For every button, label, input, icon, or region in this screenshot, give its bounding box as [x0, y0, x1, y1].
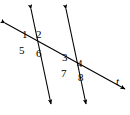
angle-label-2: 2	[36, 29, 42, 40]
angle-label-3: 3	[62, 52, 68, 63]
angle-label-1: 1	[22, 29, 28, 40]
geometry-figure: 1 2 5 6 3 4 7 8 t	[0, 0, 130, 115]
second-parallel-line	[66, 9, 86, 104]
angle-label-6: 6	[36, 48, 42, 59]
angle-label-4: 4	[77, 58, 83, 69]
transversal-label-t: t	[116, 76, 119, 87]
angle-label-5: 5	[19, 45, 25, 56]
angle-label-8: 8	[78, 72, 84, 83]
angle-label-7: 7	[61, 68, 67, 79]
